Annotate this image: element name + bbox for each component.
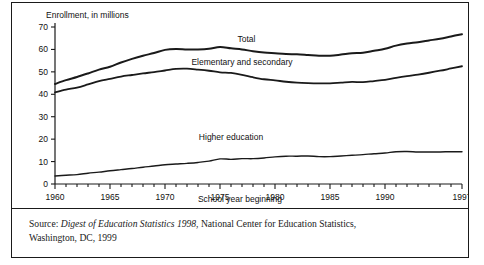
y-tick-label: 0 [43, 179, 48, 189]
source-rest: , National Center for Education Statisti… [196, 218, 356, 229]
axes [55, 23, 462, 184]
y-tick-label: 30 [39, 112, 49, 122]
series-line [55, 151, 462, 175]
figure-frame: 010203040506070 196019651970197519801985… [11, 2, 469, 258]
x-tick-label: 1997 [453, 192, 468, 202]
chart-region: 010203040506070 196019651970197519801985… [12, 3, 468, 207]
y-axis-label: Enrollment, in millions [46, 10, 129, 20]
y-axis-ticks: 010203040506070 [39, 22, 55, 189]
source-prefix: Source: [29, 218, 61, 229]
y-tick-label: 10 [39, 157, 49, 167]
x-tick-label: 1990 [376, 192, 395, 202]
y-tick-label: 70 [39, 22, 49, 32]
source-block: Source: Digest of Education Statistics 1… [12, 208, 468, 258]
series-label: Elementary and secondary [191, 57, 293, 67]
x-tick-label: 1970 [156, 192, 175, 202]
data-series-lines [55, 34, 462, 176]
series-label: Higher education [199, 132, 264, 142]
source-line-two: Washington, DC, 1999 [29, 232, 117, 243]
y-tick-label: 60 [39, 44, 49, 54]
enrollment-line-chart: 010203040506070 196019651970197519801985… [12, 3, 468, 207]
y-tick-label: 40 [39, 89, 49, 99]
x-axis-label: School year beginning [198, 194, 282, 204]
x-tick-label: 1985 [321, 192, 340, 202]
x-tick-label: 1960 [46, 192, 65, 202]
y-tick-label: 20 [39, 134, 49, 144]
x-tick-label: 1965 [101, 192, 120, 202]
series-line [55, 66, 462, 92]
source-citation: Source: Digest of Education Statistics 1… [29, 217, 452, 245]
series-label: Total [237, 34, 255, 44]
y-tick-label: 50 [39, 67, 49, 77]
source-title: Digest of Education Statistics 1998 [61, 218, 196, 229]
